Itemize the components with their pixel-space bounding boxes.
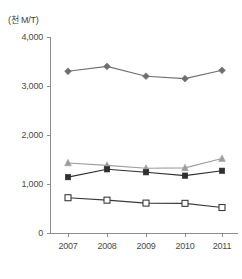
data-series-group (65, 63, 226, 211)
data-point-square-hollow (182, 200, 188, 206)
x-axis: 20072008200920102011 (50, 233, 238, 251)
data-point-square-filled (65, 174, 70, 179)
y-tick-label: 2,000 (21, 130, 43, 140)
data-point-diamond (143, 73, 150, 80)
data-point-square-hollow (65, 195, 71, 201)
data-point-diamond (219, 67, 226, 74)
chart-plot-area: 4,0003,0002,0001,0000 200720082009201020… (0, 0, 242, 279)
data-point-square-filled (143, 170, 148, 175)
data-point-square-hollow (219, 205, 225, 211)
data-point-diamond (182, 75, 189, 82)
series-diamond-series (65, 63, 226, 82)
data-point-square-hollow (143, 200, 149, 206)
series-triangle-series (65, 155, 226, 171)
data-point-square-filled (104, 167, 109, 172)
x-tick-label: 2007 (58, 241, 77, 251)
line-chart: (천 M/T) 4,0003,0002,0001,0000 2007200820… (0, 0, 242, 279)
x-tick-label: 2010 (175, 241, 194, 251)
y-axis: 4,0003,0002,0001,0000 (21, 32, 50, 238)
x-tick-label: 2008 (97, 241, 116, 251)
data-point-diamond (104, 63, 111, 70)
x-tick-label: 2011 (213, 241, 232, 251)
x-tick-label: 2009 (136, 241, 155, 251)
data-point-square-filled (219, 168, 224, 173)
data-point-diamond (65, 68, 72, 75)
data-point-square-hollow (104, 197, 110, 203)
y-tick-label: 1,000 (21, 179, 43, 189)
data-point-square-filled (182, 173, 187, 178)
y-tick-label: 3,000 (21, 81, 43, 91)
y-tick-label: 4,000 (21, 32, 43, 42)
y-tick-label: 0 (38, 228, 43, 238)
data-point-triangle (219, 155, 226, 161)
series-hollow-square-series (65, 195, 225, 211)
